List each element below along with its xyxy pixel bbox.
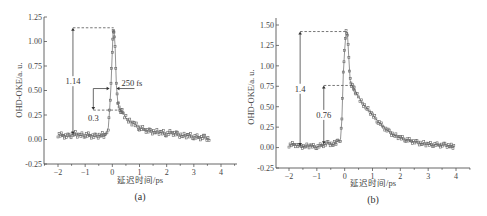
y-tick-label: 0.75 bbox=[260, 82, 274, 91]
y-tick-label: 0.50 bbox=[28, 86, 42, 95]
data-point bbox=[135, 122, 137, 124]
y-tick-label: 1.00 bbox=[260, 62, 274, 71]
chart-b: -0.250.000.250.500.751.001.251.50−2−1012… bbox=[246, 18, 470, 206]
data-point bbox=[131, 124, 133, 126]
y-tick-label: 0.50 bbox=[260, 103, 274, 112]
arrowhead-icon bbox=[92, 107, 96, 110]
x-axis-label: 延迟时间/ps bbox=[117, 175, 163, 185]
data-line bbox=[289, 32, 455, 147]
x-tick-label: 2 bbox=[398, 172, 402, 181]
data-point bbox=[339, 140, 341, 142]
data-point bbox=[185, 137, 187, 139]
y-tick-label: -0.25 bbox=[257, 164, 274, 173]
y-tick-label: 0.00 bbox=[28, 135, 42, 144]
y-tick-label: 1.25 bbox=[28, 13, 42, 22]
data-point bbox=[312, 143, 314, 145]
subfigure-label: (b) bbox=[367, 194, 379, 206]
data-point bbox=[199, 139, 201, 141]
annotation-label: 250 fs bbox=[121, 78, 142, 88]
x-tick-label: 0 bbox=[343, 172, 347, 181]
data-point bbox=[172, 134, 174, 136]
data-point bbox=[91, 137, 93, 139]
data-point bbox=[200, 135, 202, 137]
x-tick-label: 0 bbox=[110, 168, 114, 177]
y-axis-label: OHD-OKE/a. u. bbox=[246, 69, 256, 124]
data-point bbox=[390, 134, 392, 136]
y-tick-label: 1.25 bbox=[260, 41, 274, 50]
arrowhead-icon bbox=[298, 32, 302, 35]
x-tick-label: −1 bbox=[81, 168, 90, 177]
data-point bbox=[77, 136, 79, 138]
data-point bbox=[450, 143, 452, 145]
data-point bbox=[156, 129, 158, 131]
data-point bbox=[183, 132, 185, 134]
data-point bbox=[57, 136, 59, 138]
chart-a: -0.250.000.250.500.751.001.25−2−101234延迟… bbox=[14, 13, 237, 203]
data-point bbox=[360, 99, 362, 101]
subfigure-label: (a) bbox=[134, 191, 145, 203]
data-point bbox=[288, 146, 290, 148]
data-point bbox=[329, 145, 331, 147]
data-point bbox=[190, 133, 192, 135]
data-point bbox=[446, 146, 448, 148]
x-tick-label: 4 bbox=[454, 172, 458, 181]
x-axis-label: 延迟时间/ps bbox=[350, 178, 396, 188]
data-point bbox=[395, 133, 397, 135]
data-point bbox=[142, 126, 144, 128]
annotation-label: 1.14 bbox=[66, 76, 82, 86]
data-point bbox=[153, 129, 155, 131]
x-tick-label: 2 bbox=[165, 168, 169, 177]
data-point bbox=[81, 132, 83, 134]
data-point bbox=[152, 133, 154, 135]
data-point bbox=[436, 142, 438, 144]
data-point bbox=[101, 131, 103, 133]
arrowhead-icon bbox=[322, 85, 326, 88]
data-point bbox=[158, 134, 160, 136]
x-tick-label: −1 bbox=[313, 172, 322, 181]
x-tick-label: 3 bbox=[192, 168, 196, 177]
annotation-label: 1.4 bbox=[295, 84, 306, 94]
data-point bbox=[418, 144, 420, 146]
arrowhead-icon bbox=[71, 28, 75, 31]
data-point bbox=[64, 137, 66, 139]
data-point bbox=[397, 138, 399, 140]
data-point bbox=[423, 141, 425, 143]
data-point bbox=[60, 132, 62, 134]
y-tick-label: 0.25 bbox=[28, 111, 42, 120]
y-tick-label: -0.25 bbox=[25, 160, 42, 169]
annotation-label: 0.76 bbox=[316, 110, 331, 120]
data-point bbox=[59, 135, 61, 137]
y-tick-label: 1.50 bbox=[260, 21, 274, 30]
data-point bbox=[58, 133, 60, 135]
figure-canvas: -0.250.000.250.500.751.001.25−2−101234延迟… bbox=[0, 0, 487, 216]
data-point bbox=[103, 137, 105, 139]
annotation-label: 0.3 bbox=[88, 113, 99, 123]
data-point bbox=[162, 130, 164, 132]
x-tick-label: 4 bbox=[219, 168, 223, 177]
data-point bbox=[169, 130, 171, 132]
data-point bbox=[408, 137, 410, 139]
data-point bbox=[206, 140, 208, 142]
data-point bbox=[202, 138, 204, 140]
y-tick-label: 0.00 bbox=[260, 143, 274, 152]
data-point bbox=[196, 134, 198, 136]
y-axis-label: OHD-OKE/a. u. bbox=[14, 62, 24, 117]
data-point bbox=[145, 131, 147, 133]
y-tick-label: 0.25 bbox=[260, 123, 274, 132]
data-point bbox=[402, 135, 404, 137]
y-tick-label: 0.75 bbox=[28, 62, 42, 71]
data-point bbox=[295, 146, 297, 148]
y-tick-label: 1.00 bbox=[28, 37, 42, 46]
data-point bbox=[412, 142, 414, 144]
data-point bbox=[179, 136, 181, 138]
data-point bbox=[129, 118, 131, 120]
data-point bbox=[452, 147, 454, 149]
data-point bbox=[87, 132, 89, 134]
x-tick-label: 3 bbox=[426, 172, 430, 181]
x-tick-label: −2 bbox=[285, 172, 294, 181]
arrowhead-icon bbox=[107, 87, 110, 91]
x-tick-label: −2 bbox=[54, 168, 63, 177]
data-point bbox=[425, 145, 427, 147]
